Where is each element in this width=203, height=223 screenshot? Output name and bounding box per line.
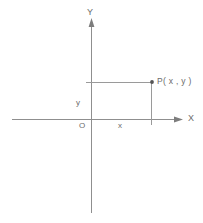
y-component-label: y	[76, 99, 80, 107]
x-axis-arrow-icon	[174, 116, 183, 122]
y-axis-arrow-icon	[89, 18, 95, 27]
point-p-label: P( x , y )	[157, 77, 192, 86]
point-p-marker	[150, 80, 154, 84]
x-axis-label: X	[188, 114, 194, 123]
y-axis-label: Y	[87, 8, 93, 17]
x-component-label: x	[118, 122, 122, 130]
origin-label: O	[79, 122, 85, 130]
coordinate-diagram: Y X O x y P( x , y )	[0, 0, 203, 223]
coordinate-axes-svg	[0, 0, 203, 223]
